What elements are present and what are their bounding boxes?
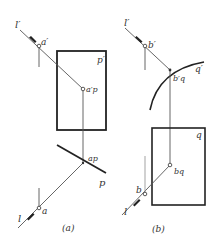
label-a-p-prime: a′p xyxy=(86,85,98,94)
projection-diagram: l′ a′ p′ a′p ap p a l (a) l′ b′ q′ b′q q… xyxy=(0,0,212,240)
point-a xyxy=(37,206,41,210)
label-p-prime: p′ xyxy=(97,55,105,65)
figure-b: l′ b′ q′ b′q q bq b l (b) xyxy=(122,17,205,234)
point-a-p-prime xyxy=(81,87,85,91)
caption-b: (b) xyxy=(152,224,165,234)
line-l-b xyxy=(122,165,170,215)
point-b xyxy=(143,192,147,196)
point-b-q-prime xyxy=(169,69,172,72)
point-b-prime xyxy=(143,44,147,48)
label-a-p: ap xyxy=(88,154,98,163)
label-q: q xyxy=(196,130,202,140)
arrow-l-prime-b-icon xyxy=(135,36,143,43)
arrow-l-icon xyxy=(27,213,35,221)
label-l-prime-b: l′ xyxy=(124,17,130,28)
caption-a: (a) xyxy=(62,223,75,233)
label-l-b: l xyxy=(124,206,127,217)
label-b-q-prime: b′q xyxy=(173,74,185,83)
point-a-p xyxy=(82,162,84,164)
label-a-prime: a′ xyxy=(41,37,48,47)
point-b-q xyxy=(168,163,172,167)
label-l-prime-a: l′ xyxy=(15,19,21,30)
label-l-a: l xyxy=(18,213,21,224)
label-b-q: bq xyxy=(174,167,184,176)
line-l-prime xyxy=(20,30,83,89)
label-a: a xyxy=(42,206,47,216)
label-p: p xyxy=(99,177,106,188)
label-b-prime: b′ xyxy=(148,40,156,50)
label-b: b xyxy=(136,185,142,195)
label-q-prime: q′ xyxy=(195,64,203,74)
figure-a: l′ a′ p′ a′p ap p a l (a) xyxy=(15,19,106,233)
plane-p-trace xyxy=(57,145,106,173)
